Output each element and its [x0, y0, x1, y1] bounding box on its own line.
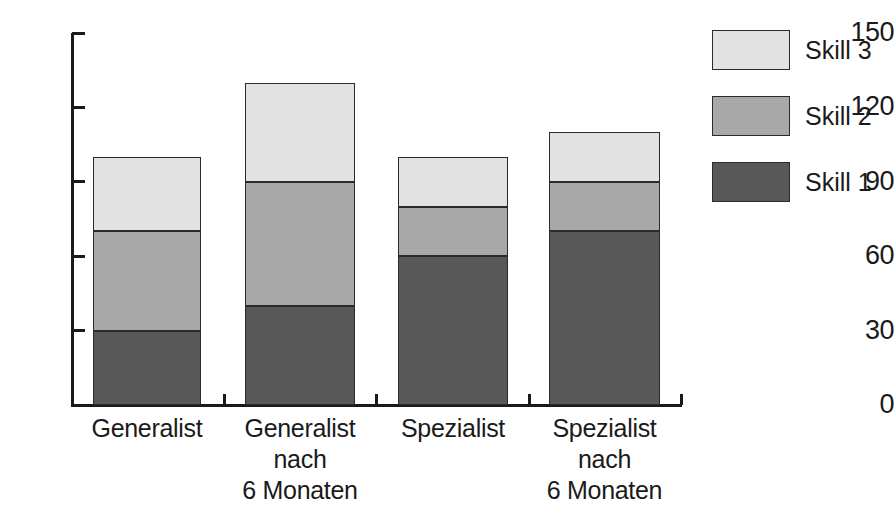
bar-segment-skill-3[interactable]	[398, 157, 508, 207]
x-axis-category-label-line: 6 Monaten	[223, 475, 377, 506]
bar-segment-skill-2[interactable]	[549, 182, 660, 232]
x-axis-category-label: Spezialist	[376, 413, 530, 444]
legend-item[interactable]: Skill 3	[712, 30, 887, 70]
chart-legend: Skill 3Skill 2Skill 1	[712, 30, 887, 228]
bar-segment-skill-3[interactable]	[549, 132, 660, 182]
y-axis-tick-label: 0	[832, 391, 894, 418]
x-axis-category-label: Generalist	[71, 413, 223, 444]
x-axis-category-label-line: 6 Monaten	[527, 475, 682, 506]
legend-label: Skill 2	[805, 100, 872, 132]
legend-item[interactable]: Skill 2	[712, 96, 887, 136]
legend-swatch	[712, 30, 790, 70]
bar-stack[interactable]	[93, 33, 201, 405]
legend-swatch	[712, 96, 790, 136]
bar-segment-skill-2[interactable]	[93, 231, 201, 330]
legend-label: Skill 1	[805, 166, 872, 198]
bar-stack[interactable]	[549, 33, 660, 405]
bar-segment-skill-1[interactable]	[93, 331, 201, 405]
bar-stack[interactable]	[398, 33, 508, 405]
x-axis-category-label-line: Generalist	[71, 413, 223, 444]
legend-item[interactable]: Skill 1	[712, 162, 887, 202]
bar-segment-skill-1[interactable]	[398, 256, 508, 405]
bar-segment-skill-1[interactable]	[549, 231, 660, 405]
x-axis-category-label: Spezialistnach6 Monaten	[527, 413, 682, 506]
x-axis-category-label-line: nach	[223, 444, 377, 475]
x-axis-category-label-line: nach	[527, 444, 682, 475]
bar-stack[interactable]	[245, 33, 355, 405]
bar-segment-skill-3[interactable]	[245, 83, 355, 182]
x-axis-category-label-line: Generalist	[223, 413, 377, 444]
legend-label: Skill 3	[805, 34, 872, 66]
bar-segment-skill-2[interactable]	[398, 207, 508, 257]
bar-segment-skill-1[interactable]	[245, 306, 355, 405]
bar-segment-skill-2[interactable]	[245, 182, 355, 306]
legend-swatch	[712, 162, 790, 202]
x-axis-category-label-line: Spezialist	[376, 413, 530, 444]
x-axis-category-label-line: Spezialist	[527, 413, 682, 444]
bar-segment-skill-3[interactable]	[93, 157, 201, 231]
y-axis-tick-label: 60	[832, 242, 894, 269]
stacked-bar-chart: 0306090120150 GeneralistGeneralistnach6 …	[0, 0, 894, 519]
y-axis-tick-label: 30	[832, 317, 894, 344]
x-axis-category-label: Generalistnach6 Monaten	[223, 413, 377, 506]
